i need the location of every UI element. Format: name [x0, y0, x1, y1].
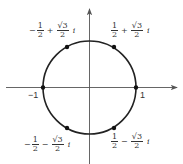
- label-upper-left: − 12 + √32 i: [29, 22, 75, 39]
- operator: +: [47, 26, 54, 35]
- unit-circle-diagram: −1 1 − 12 + √32 i 12 + √32 i − 12 − √32 …: [0, 0, 183, 164]
- label-lower-left: − 12 − √32 i: [24, 136, 70, 153]
- operator: −: [121, 137, 128, 146]
- sign: −: [29, 26, 36, 35]
- operator: +: [121, 26, 128, 35]
- denominator: 2: [111, 31, 118, 39]
- fraction-real: 12: [37, 22, 44, 39]
- point-upper-left: [65, 45, 69, 49]
- point-right: [134, 85, 138, 89]
- denominator: 2: [54, 145, 61, 153]
- imag-unit: i: [68, 140, 71, 149]
- denominator: 2: [133, 142, 140, 150]
- label-pos-one: 1: [140, 90, 145, 100]
- denominator: 2: [111, 142, 118, 150]
- fraction-imag: √32: [52, 136, 64, 153]
- imag-unit: i: [147, 137, 150, 146]
- point-lower-left: [65, 126, 69, 130]
- label-upper-right: 12 + √32 i: [110, 22, 150, 39]
- imag-unit: i: [147, 26, 150, 35]
- fraction-real: 12: [32, 136, 39, 153]
- fraction-imag: √32: [131, 22, 143, 39]
- point-left: [41, 85, 45, 89]
- label-neg-one: −1: [28, 90, 38, 100]
- operator: −: [42, 140, 49, 149]
- sign: −: [24, 140, 31, 149]
- denominator: 2: [133, 31, 140, 39]
- denominator: 2: [37, 31, 44, 39]
- fraction-real: 12: [111, 22, 118, 39]
- fraction-imag: √32: [131, 133, 143, 150]
- label-lower-right: 12 − √32 i: [110, 133, 150, 150]
- denominator: 2: [32, 145, 39, 153]
- point-upper-right: [112, 45, 116, 49]
- fraction-real: 12: [111, 133, 118, 150]
- denominator: 2: [59, 31, 66, 39]
- imag-unit: i: [73, 26, 76, 35]
- point-lower-right: [112, 126, 116, 130]
- fraction-imag: √32: [57, 22, 69, 39]
